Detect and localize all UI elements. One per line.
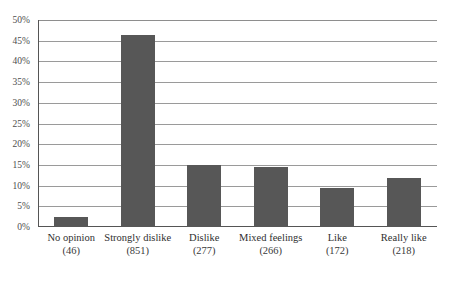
- category-name: Really like: [361, 231, 447, 244]
- bar: [320, 188, 354, 227]
- bar: [187, 165, 221, 228]
- y-axis-tick-label: 50%: [0, 15, 30, 25]
- y-axis-tick-label: 0%: [0, 222, 30, 232]
- y-axis-tick-label: 10%: [0, 181, 30, 191]
- bar: [387, 178, 421, 227]
- y-axis-tick-label: 30%: [0, 98, 30, 108]
- y-axis-tick-label: 35%: [0, 77, 30, 87]
- y-axis-tick-label: 5%: [0, 201, 30, 211]
- bar: [54, 217, 88, 227]
- x-axis-category-label: Really like(218): [361, 231, 447, 257]
- y-axis-tick-label: 40%: [0, 56, 30, 66]
- y-axis-tick-label: 45%: [0, 36, 30, 46]
- y-axis-tick-label: 20%: [0, 139, 30, 149]
- bar: [121, 35, 155, 228]
- bar: [254, 167, 288, 227]
- x-axis-category-labels: No opinion(46)Strongly dislike(851)Disli…: [38, 231, 437, 293]
- y-axis-tick-label: 15%: [0, 160, 30, 170]
- y-axis-tick-label: 25%: [0, 119, 30, 129]
- y-axis-tick-labels: 0%5%10%15%20%25%30%35%40%45%50%: [0, 20, 34, 227]
- bar-chart: 0%5%10%15%20%25%30%35%40%45%50% No opini…: [0, 0, 454, 296]
- category-count: (218): [361, 244, 447, 257]
- bars-layer: [38, 20, 437, 227]
